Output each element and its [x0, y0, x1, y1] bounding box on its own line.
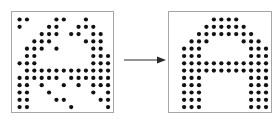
pattern-dot: [182, 105, 186, 109]
pattern-dot: [91, 90, 95, 94]
pattern-dot: [189, 39, 193, 43]
pattern-dot: [25, 61, 29, 65]
pattern-dot: [32, 39, 36, 43]
pattern-dot: [25, 76, 29, 80]
right-panel-caption: restored pattern: [0, 0, 1, 1]
pattern-dot: [62, 17, 66, 21]
pattern-dot: [25, 105, 29, 109]
pattern-dot: [197, 98, 201, 102]
pattern-dot: [99, 83, 103, 87]
pattern-dot: [99, 39, 103, 43]
pattern-dot: [54, 69, 58, 73]
pattern-dot: [189, 83, 193, 87]
pattern-dot: [234, 61, 238, 65]
pattern-dot: [264, 83, 268, 87]
pattern-dot: [47, 90, 51, 94]
pattern-dot: [76, 25, 80, 29]
pattern-dot: [54, 76, 58, 80]
pattern-dot: [47, 25, 51, 29]
pattern-dot: [234, 25, 238, 29]
pattern-dot: [227, 69, 231, 73]
pattern-dot: [249, 90, 253, 94]
pattern-dot: [249, 32, 253, 36]
pattern-dot: [32, 47, 36, 51]
pattern-dot: [197, 90, 201, 94]
pattern-dot: [99, 54, 103, 58]
pattern-dot: [197, 105, 201, 109]
pattern-dot: [189, 61, 193, 65]
pattern-dot: [106, 83, 110, 87]
pattern-dot: [91, 54, 95, 58]
pattern-dot: [219, 61, 223, 65]
pattern-dot: [17, 17, 21, 21]
pattern-dot: [32, 54, 36, 58]
pattern-dot: [264, 47, 268, 51]
pattern-dot: [212, 61, 216, 65]
pattern-dot: [189, 47, 193, 51]
pattern-dot: [99, 61, 103, 65]
pattern-dot: [256, 105, 260, 109]
pattern-dot: [242, 39, 246, 43]
pattern-dot: [99, 32, 103, 36]
pattern-dot: [197, 32, 201, 36]
pattern-dot: [197, 83, 201, 87]
pattern-dot: [256, 61, 260, 65]
pattern-dot: [249, 61, 253, 65]
figure-title: Dot matrix pattern restoration: [0, 0, 1, 1]
pattern-dot: [264, 54, 268, 58]
pattern-dot: [249, 47, 253, 51]
pattern-dot: [91, 25, 95, 29]
pattern-dot: [25, 90, 29, 94]
pattern-dot: [219, 17, 223, 21]
pattern-dot: [182, 90, 186, 94]
pattern-dot: [264, 69, 268, 73]
pattern-dot: [249, 83, 253, 87]
pattern-dot: [76, 32, 80, 36]
pattern-dot: [234, 69, 238, 73]
pattern-dot: [182, 76, 186, 80]
pattern-dot: [256, 39, 260, 43]
pattern-dot: [84, 69, 88, 73]
pattern-dot: [189, 90, 193, 94]
pattern-dot: [99, 98, 103, 102]
pattern-dot: [197, 54, 201, 58]
pattern-dot: [99, 69, 103, 73]
pattern-dot: [106, 90, 110, 94]
pattern-dot: [40, 47, 44, 51]
pattern-dot: [256, 76, 260, 80]
pattern-dot: [91, 32, 95, 36]
pattern-dot: [62, 98, 66, 102]
pattern-dot: [182, 54, 186, 58]
pattern-dot: [25, 98, 29, 102]
pattern-dot: [25, 17, 29, 21]
pattern-dot: [32, 69, 36, 73]
pattern-dot: [227, 17, 231, 21]
pattern-dot: [197, 39, 201, 43]
pattern-dot: [234, 17, 238, 21]
pattern-dot: [17, 83, 21, 87]
transform-arrow-icon: [124, 53, 166, 67]
pattern-dot: [54, 47, 58, 51]
pattern-dot: [189, 98, 193, 102]
pattern-dot: [242, 25, 246, 29]
pattern-dot: [62, 83, 66, 87]
pattern-dot: [264, 61, 268, 65]
pattern-dot: [47, 39, 51, 43]
figure-container: Dot matrix pattern restoration noisy inp…: [0, 0, 280, 125]
pattern-dot: [40, 39, 44, 43]
pattern-dot: [212, 25, 216, 29]
pattern-dot: [204, 25, 208, 29]
pattern-dot: [227, 32, 231, 36]
pattern-dot: [54, 98, 58, 102]
pattern-dot: [212, 69, 216, 73]
pattern-dot: [197, 47, 201, 51]
pattern-dot: [256, 98, 260, 102]
pattern-dot: [40, 69, 44, 73]
pattern-dot: [32, 76, 36, 80]
pattern-dot: [91, 61, 95, 65]
pattern-dot: [106, 76, 110, 80]
pattern-dot: [227, 61, 231, 65]
noisy-dot-grid: [12, 12, 113, 112]
pattern-dot: [84, 76, 88, 80]
pattern-dot: [91, 76, 95, 80]
